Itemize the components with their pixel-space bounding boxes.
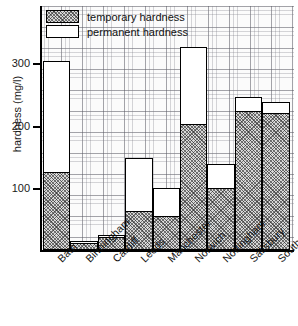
bar-bath[interactable] <box>43 61 70 250</box>
bars-container <box>40 6 294 250</box>
y-tick-label-100: 100 <box>0 183 30 194</box>
chart-figure: 300 200 100 hardness (mg/l) temporary ha… <box>0 0 298 326</box>
legend-item-temporary: temporary hardness <box>46 10 188 23</box>
chart-legend: temporary hardness permanent hardness <box>46 10 188 40</box>
legend-swatch-permanent-icon <box>46 25 79 38</box>
legend-label-temporary: temporary hardness <box>87 11 185 23</box>
bar-temporary-segment <box>44 172 69 250</box>
legend-label-permanent: permanent hardness <box>87 26 188 38</box>
legend-swatch-temporary-icon <box>46 10 79 23</box>
legend-item-permanent: permanent hardness <box>46 25 188 38</box>
y-axis-title: hardness (mg/l) <box>11 54 23 174</box>
